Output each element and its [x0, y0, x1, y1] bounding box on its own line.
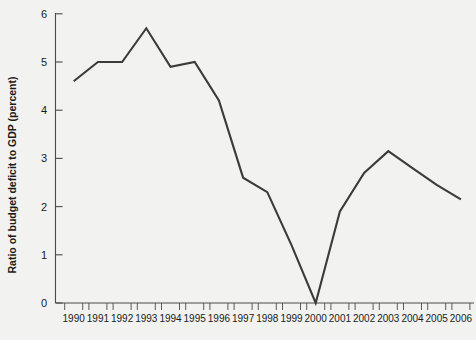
x-tick-label-1991: 1991	[87, 313, 110, 324]
x-tick-label-2005: 2005	[426, 313, 449, 324]
y-tick-label-5: 5	[41, 56, 47, 68]
x-tick-label-2003: 2003	[377, 313, 400, 324]
x-tick-label-1998: 1998	[256, 313, 279, 324]
x-tick-label-2000: 2000	[305, 313, 328, 324]
y-tick-label-3: 3	[41, 152, 47, 164]
x-tick-label-1993: 1993	[135, 313, 158, 324]
x-tick-label-2004: 2004	[401, 313, 424, 324]
x-tick-label-1995: 1995	[184, 313, 207, 324]
x-tick-label-2001: 2001	[329, 313, 352, 324]
x-tick-label-1997: 1997	[232, 313, 255, 324]
y-tick-label-4: 4	[41, 104, 47, 116]
x-tick-label-1994: 1994	[159, 313, 182, 324]
x-tick-label-1992: 1992	[111, 313, 134, 324]
y-axis-label: Ratio of budget deficit to GDP (percent)	[6, 77, 18, 274]
x-tick-label-1996: 1996	[208, 313, 231, 324]
y-tick-label-2: 2	[41, 201, 47, 213]
x-tick-label-2006: 2006	[450, 313, 473, 324]
y-tick-label-6: 6	[41, 8, 47, 20]
x-tick-label-1990: 1990	[63, 313, 86, 324]
chart-background	[0, 0, 476, 340]
y-tick-label-1: 1	[41, 249, 47, 261]
x-axis-tick-labels: 1990199119921993199419951996199719981999…	[63, 313, 473, 324]
line-chart: 0123456 19901991199219931994199519961997…	[0, 0, 476, 340]
chart-container: 0123456 19901991199219931994199519961997…	[0, 0, 476, 340]
x-tick-label-1999: 1999	[280, 313, 303, 324]
x-tick-label-2002: 2002	[353, 313, 376, 324]
y-tick-label-0: 0	[41, 297, 47, 309]
